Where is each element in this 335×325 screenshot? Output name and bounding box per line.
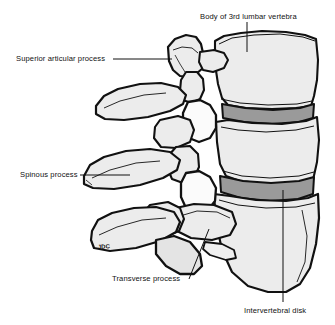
- pars-interarticularis-l4: [154, 116, 194, 148]
- artist-signature: JDC: [98, 243, 111, 250]
- spinous-process-l4: [84, 149, 180, 189]
- label-body-of-3rd-lumbar-vertebra: Body of 3rd lumbar vertebra: [200, 13, 297, 21]
- inferior-articular-process-l5: [156, 236, 202, 274]
- vertebral-body-l3: [215, 31, 318, 109]
- label-intervertebral-disk: Intervertebral disk: [244, 307, 306, 315]
- label-spinous-process: Spinous process: [20, 171, 78, 179]
- label-superior-articular-process: Superior articular process: [16, 55, 105, 63]
- vertebral-body-l5: [214, 194, 319, 292]
- anatomy-figure-page: JDC Body of 3rd lumbar vertebra Superior…: [0, 0, 335, 325]
- spinous-process-l3: [96, 83, 186, 120]
- vertebral-body-l4: [216, 117, 319, 184]
- label-transverse-process: Transverse process: [112, 275, 180, 283]
- pedicle-l3: [199, 50, 228, 72]
